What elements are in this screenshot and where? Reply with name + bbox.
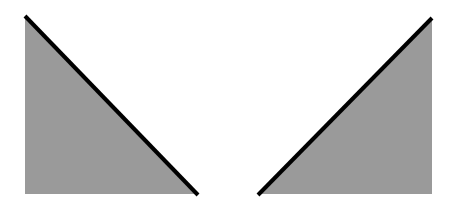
triangles-diagram [0, 0, 457, 203]
figure-canvas [0, 0, 457, 203]
